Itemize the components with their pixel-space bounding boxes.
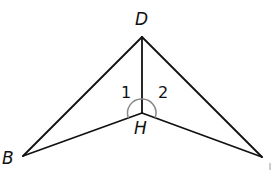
geometry-diagram: D H B 1 2: [0, 0, 271, 171]
segment-HR: [142, 113, 262, 157]
point-label-B: B: [2, 148, 14, 168]
angle-label-2: 2: [158, 83, 168, 102]
point-label-D: D: [135, 9, 148, 29]
point-label-H: H: [134, 118, 147, 138]
angle-label-1: 1: [121, 83, 131, 102]
segment-HB: [23, 113, 142, 156]
